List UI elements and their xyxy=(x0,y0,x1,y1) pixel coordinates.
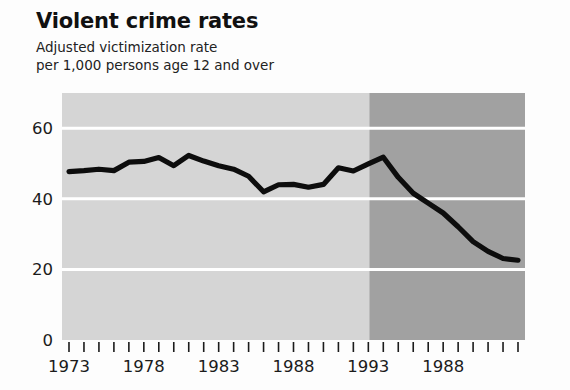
x-axis-labels: 197319781983198819931988 xyxy=(48,357,464,376)
y-axis-label-0: 0 xyxy=(43,331,54,350)
y-axis-label-60: 60 xyxy=(32,119,53,138)
chart-page: Violent crime rates Adjusted victimizati… xyxy=(0,0,570,390)
background-bands xyxy=(62,93,525,340)
x-axis-label-1993: 1993 xyxy=(347,357,389,376)
y-axis-label-40: 40 xyxy=(32,190,53,209)
y-axis-labels: 0204060 xyxy=(32,119,53,350)
x-axis-label-1983: 1983 xyxy=(198,357,240,376)
band-period-1973-1993 xyxy=(62,93,369,340)
x-axis-label-1998: 1988 xyxy=(422,357,464,376)
chart-plot-area: 0204060 197319781983198819931988 xyxy=(0,0,570,390)
x-axis-label-1973: 1973 xyxy=(48,357,90,376)
y-axis-label-20: 20 xyxy=(32,260,53,279)
x-axis-ticks xyxy=(69,342,518,352)
line-chart-svg: 0204060 197319781983198819931988 xyxy=(0,0,570,390)
x-axis-label-1988: 1988 xyxy=(273,357,315,376)
x-axis-label-1978: 1978 xyxy=(123,357,165,376)
